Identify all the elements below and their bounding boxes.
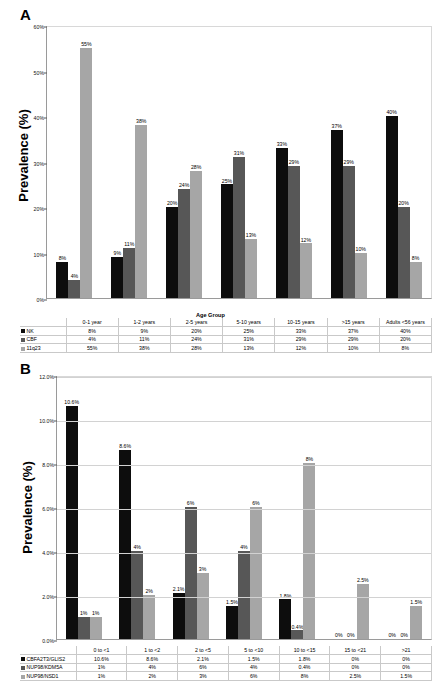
bar: 1% xyxy=(90,617,102,639)
table-cell-value: 8% xyxy=(66,327,118,336)
bar-value-label: 10.6% xyxy=(64,400,79,405)
figure-page: A Prevalence (%) 8%4%55%9%11%38%20%24%28… xyxy=(0,0,446,697)
table-row: NUP98/NSD11%2%3%6%8%2.5%1.5% xyxy=(20,672,432,681)
table-category-label: 1-2 years xyxy=(118,318,170,327)
bar-group: 37%29%10% xyxy=(321,27,376,298)
bar-group: 8%4%55% xyxy=(47,27,102,298)
table-category-label: 0-1 year xyxy=(66,318,118,327)
bar: 2.1% xyxy=(173,593,185,639)
table-corner-cell xyxy=(20,646,76,655)
table-cell-value: 2.1% xyxy=(178,655,229,664)
y-axis-tick-mark xyxy=(54,421,57,422)
legend-swatch-icon xyxy=(21,675,25,679)
bar-value-label: 13% xyxy=(246,233,256,238)
bar-value-label: 2% xyxy=(145,589,153,594)
bar: 12% xyxy=(300,243,312,298)
legend-series-name: CBF xyxy=(27,336,37,342)
bar: 38% xyxy=(135,125,147,298)
panel-b-y-axis-label: Prevalence (%) xyxy=(20,453,35,563)
legend-entry: CBFA2T3/GLIS2 xyxy=(20,655,76,664)
bar-value-label: 40% xyxy=(386,110,396,115)
table-row: CBFA2T3/GLIS210.6%8.6%2.1%1.5%1.8%0%0% xyxy=(20,655,432,664)
table-row: CBF4%11%24%31%29%29%20% xyxy=(20,335,432,344)
table-category-label: 2 to <5 xyxy=(178,646,229,655)
bar: 2.5% xyxy=(357,584,369,639)
bar: 20% xyxy=(166,207,178,298)
legend-swatch-icon xyxy=(21,347,25,351)
gridline xyxy=(57,509,431,510)
bar-value-label: 3% xyxy=(199,567,207,572)
panel-b: B Prevalence (%) 10.6%1%1%8.6%4%2%2.1%6%… xyxy=(0,352,446,697)
y-axis-tick-mark xyxy=(54,509,57,510)
table-category-label: 10-15 years xyxy=(275,318,327,327)
bar: 29% xyxy=(343,166,355,298)
bar-value-label: 8% xyxy=(306,457,314,462)
table-cell-value: 9% xyxy=(118,327,170,336)
y-axis-tick-mark xyxy=(44,209,47,210)
bar: 8% xyxy=(410,262,422,298)
table-cell-value: 1.8% xyxy=(279,655,330,664)
legend-swatch-icon xyxy=(21,329,25,333)
legend-series-name: CBFA2T3/GLIS2 xyxy=(27,656,66,662)
bar-value-label: 11% xyxy=(124,242,134,247)
legend-series-name: NUP98/KDM5A xyxy=(27,664,63,670)
table-corner-cell xyxy=(20,318,66,327)
legend-entry: CBF xyxy=(20,335,66,344)
bar-value-label: 33% xyxy=(277,142,287,147)
bar-value-label: 2.1% xyxy=(173,587,185,592)
y-axis-tick-mark xyxy=(54,553,57,554)
bar-value-label: 25% xyxy=(222,179,232,184)
bar: 8.6% xyxy=(119,450,131,639)
bar: 8% xyxy=(303,463,315,639)
bar-group: 1.5%4%6% xyxy=(217,377,270,639)
panel-a-letter: A xyxy=(20,6,31,23)
bar-group: 8.6%4%2% xyxy=(110,377,163,639)
table-cell-value: 10.6% xyxy=(76,655,127,664)
table-cell-value: 1.5% xyxy=(228,655,279,664)
bar: 29% xyxy=(288,166,300,298)
bar-group: 0%0%2.5% xyxy=(324,377,377,639)
table-cell-value: 1.5% xyxy=(381,672,432,681)
table-cell-value: 40% xyxy=(379,327,431,336)
bar: 24% xyxy=(178,189,190,298)
table-cell-value: 0% xyxy=(381,655,432,664)
bar-value-label: 20% xyxy=(167,201,177,206)
table-category-label: 1 to <2 xyxy=(127,646,178,655)
y-axis-tick-mark xyxy=(44,254,47,255)
bar-value-label: 29% xyxy=(289,160,299,165)
panel-a-bar-groups: 8%4%55%9%11%38%20%24%28%25%31%13%33%29%1… xyxy=(47,27,431,298)
table-cell-value: 20% xyxy=(170,327,222,336)
table-cell-value: 4% xyxy=(127,663,178,672)
y-axis-tick-mark xyxy=(54,377,57,378)
table-cell-value: 24% xyxy=(170,335,222,344)
bar: 6% xyxy=(185,507,197,639)
bar: 1.5% xyxy=(410,606,422,639)
panel-a-plot-area: 8%4%55%9%11%38%20%24%28%25%31%13%33%29%1… xyxy=(46,26,432,299)
y-axis-tick-mark xyxy=(44,72,47,73)
bar-value-label: 37% xyxy=(332,124,342,129)
bar-value-label: 31% xyxy=(234,151,244,156)
bar-value-label: 4% xyxy=(133,545,141,550)
bar-value-label: 0% xyxy=(347,633,355,638)
bar-value-label: 1% xyxy=(92,611,100,616)
table-cell-value: 0% xyxy=(381,663,432,672)
bar-group: 0%0%1.5% xyxy=(378,377,431,639)
legend-entry: NUP98/KDM5A xyxy=(20,663,76,672)
table-category-label: Adults <56 years xyxy=(379,318,431,327)
table-cell-value: 37% xyxy=(327,327,379,336)
table-category-label: 2-5 years xyxy=(170,318,222,327)
table-cell-value: 31% xyxy=(223,335,275,344)
bar-value-label: 1% xyxy=(80,611,88,616)
bar-value-label: 0.4% xyxy=(291,625,303,630)
bar: 9% xyxy=(111,257,123,298)
panel-b-plot-area: 10.6%1%1%8.6%4%2%2.1%6%3%1.5%4%6%1.8%0.4… xyxy=(56,376,432,640)
table-cell-value: 20% xyxy=(379,335,431,344)
gridline xyxy=(57,465,431,466)
bar: 4% xyxy=(131,551,143,639)
bar-value-label: 2.5% xyxy=(357,578,369,583)
bar: 8% xyxy=(56,262,68,298)
bar: 10% xyxy=(355,253,367,299)
table-cell-value: 8.6% xyxy=(127,655,178,664)
bar-group: 1.8%0.4%8% xyxy=(271,377,324,639)
panel-a-y-axis-label: Prevalence (%) xyxy=(16,101,31,211)
